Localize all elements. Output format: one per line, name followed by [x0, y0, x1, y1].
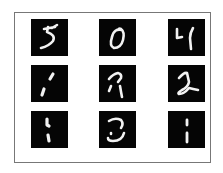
handwritten-digit-glyph: [168, 19, 205, 56]
digit-image-cell: [31, 19, 68, 56]
handwritten-digit-glyph: [31, 65, 68, 102]
handwritten-digit-glyph: [99, 111, 136, 148]
digit-image-cell: [99, 111, 136, 148]
digit-image-cell: [99, 19, 136, 56]
handwritten-digit-glyph: [168, 65, 205, 102]
handwritten-digit-glyph: [168, 111, 205, 148]
digit-image-cell: [31, 65, 68, 102]
digit-image-cell: [168, 111, 205, 148]
digit-image-cell: [168, 65, 205, 102]
handwritten-digit-glyph: [31, 111, 68, 148]
digit-image-cell: [168, 19, 205, 56]
handwritten-digit-glyph: [99, 19, 136, 56]
digit-image-cell: [31, 111, 68, 148]
digit-image-cell: [99, 65, 136, 102]
handwritten-digit-glyph: [99, 65, 136, 102]
handwritten-digit-glyph: [31, 19, 68, 56]
